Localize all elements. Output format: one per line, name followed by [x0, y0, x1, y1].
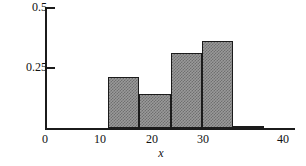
- histogram-bar: [108, 77, 139, 128]
- histogram-bar: [171, 53, 202, 128]
- x-axis-tick-label-20: 20: [140, 133, 164, 146]
- x-axis-line: [45, 128, 295, 130]
- x-axis-title: x: [8, 146, 306, 161]
- histogram-bar: [139, 94, 170, 128]
- x-axis-tick-label-0: 0: [33, 133, 57, 146]
- histogram-bar: [202, 41, 233, 128]
- x-axis-tick-label-40: 40: [271, 133, 295, 146]
- x-axis-tick-label-10: 10: [88, 133, 112, 146]
- histogram-chart: 0.5 0.25 0 10 20 30 40 x: [0, 0, 306, 166]
- x-axis-tick-label-30: 30: [191, 133, 215, 146]
